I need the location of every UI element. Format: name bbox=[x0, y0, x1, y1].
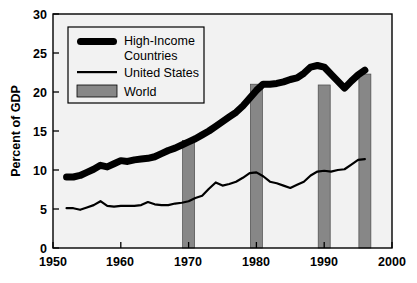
legend-label-high-income-line2: Countries bbox=[124, 49, 178, 63]
legend-swatch-united-states-icon bbox=[77, 71, 117, 73]
y-tick-label-10: 10 bbox=[33, 164, 47, 178]
y-tick-label-15: 15 bbox=[33, 125, 47, 139]
legend-label-united-states: United States bbox=[124, 66, 199, 80]
y-tick-label-5: 5 bbox=[40, 203, 47, 217]
world-bar-1990 bbox=[318, 85, 330, 248]
gdp-percent-line-chart: 30 25 20 15 10 5 0 1950 1960 1970 1980 1… bbox=[0, 0, 417, 283]
legend-label-high-income-line1: High-Income bbox=[124, 34, 195, 48]
world-bar-1996 bbox=[359, 74, 371, 248]
x-tick-label-2000: 2000 bbox=[378, 255, 406, 269]
legend-swatch-world-icon bbox=[77, 85, 117, 97]
chart-legend: High-Income Countries United States Worl… bbox=[68, 27, 204, 103]
x-tick-label-1960: 1960 bbox=[106, 255, 134, 269]
x-tick-label-1990: 1990 bbox=[310, 255, 338, 269]
x-tick-label-1950: 1950 bbox=[39, 255, 67, 269]
y-tick-label-20: 20 bbox=[33, 86, 47, 100]
legend-swatch-high-income-icon bbox=[77, 38, 117, 45]
x-tick-label-1980: 1980 bbox=[242, 255, 270, 269]
chart-figure: 30 25 20 15 10 5 0 1950 1960 1970 1980 1… bbox=[0, 0, 417, 283]
world-bar-1970 bbox=[183, 140, 195, 248]
y-tick-label-0: 0 bbox=[40, 242, 47, 256]
y-axis-title: Percent of GDP bbox=[9, 85, 23, 177]
legend-label-world: World bbox=[124, 85, 156, 99]
world-bar-1980 bbox=[250, 84, 262, 248]
y-tick-label-30: 30 bbox=[33, 8, 47, 22]
x-tick-label-1970: 1970 bbox=[174, 255, 202, 269]
y-tick-label-25: 25 bbox=[33, 47, 47, 61]
